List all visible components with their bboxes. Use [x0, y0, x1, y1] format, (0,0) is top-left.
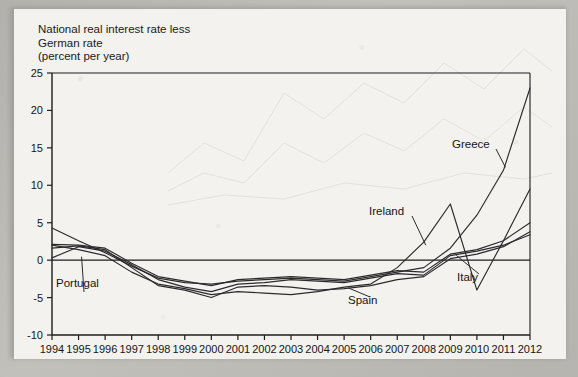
y-tick--5: -5 [33, 292, 43, 304]
data-series-lines [52, 88, 530, 298]
x-tick-2005: 2005 [332, 343, 356, 355]
axes [47, 73, 530, 340]
x-tick-2001: 2001 [226, 343, 250, 355]
leader-line-ireland [412, 216, 426, 245]
series-label-italy: Italy [457, 271, 478, 283]
annotation-leader-lines [82, 149, 506, 297]
series-label-spain: Spain [348, 294, 377, 306]
figure-root: National real interest rate lessGerman r… [0, 0, 578, 377]
x-tick-2008: 2008 [412, 343, 436, 355]
leader-line-greece [496, 149, 505, 167]
x-tick-2012: 2012 [518, 343, 542, 355]
series-label-portugal: Portugal [56, 277, 99, 289]
y-tick--10: -10 [27, 329, 43, 341]
series-line-portugal [52, 235, 530, 292]
y-axis-tick-labels: -10-50510152025 [27, 67, 43, 341]
y-tick-20: 20 [31, 104, 43, 116]
x-tick-2007: 2007 [385, 343, 409, 355]
x-tick-2011: 2011 [492, 343, 516, 355]
y-tick-5: 5 [37, 217, 43, 229]
series-line-spain [52, 232, 530, 298]
series-label-ireland: Ireland [369, 205, 404, 217]
chart-area: National real interest rate lessGerman r… [14, 9, 566, 359]
y-tick-25: 25 [31, 67, 43, 79]
scanned-page: National real interest rate lessGerman r… [14, 9, 566, 359]
x-tick-2006: 2006 [358, 343, 382, 355]
y-axis-title: National real interest rate lessGerman r… [38, 23, 190, 64]
x-tick-2003: 2003 [279, 343, 303, 355]
x-tick-1999: 1999 [173, 343, 197, 355]
x-tick-2010: 2010 [465, 343, 489, 355]
y-axis-title-line-2: German rate [38, 37, 103, 49]
x-tick-1998: 1998 [146, 343, 170, 355]
x-tick-2009: 2009 [438, 343, 462, 355]
series-label-greece: Greece [452, 138, 490, 150]
y-axis-title-line-1: National real interest rate less [38, 23, 190, 35]
x-axis-tick-labels: 1994199519961997199819992000200120022003… [40, 343, 542, 355]
y-tick-0: 0 [37, 254, 43, 266]
x-tick-2004: 2004 [305, 343, 329, 355]
x-tick-1997: 1997 [119, 343, 143, 355]
x-tick-2002: 2002 [252, 343, 276, 355]
y-tick-15: 15 [31, 142, 43, 154]
x-tick-2000: 2000 [199, 343, 223, 355]
x-tick-1995: 1995 [66, 343, 90, 355]
y-axis-title-line-3: (percent per year) [38, 50, 129, 62]
y-tick-10: 10 [31, 179, 43, 191]
x-tick-1994: 1994 [40, 343, 64, 355]
x-tick-1996: 1996 [93, 343, 117, 355]
